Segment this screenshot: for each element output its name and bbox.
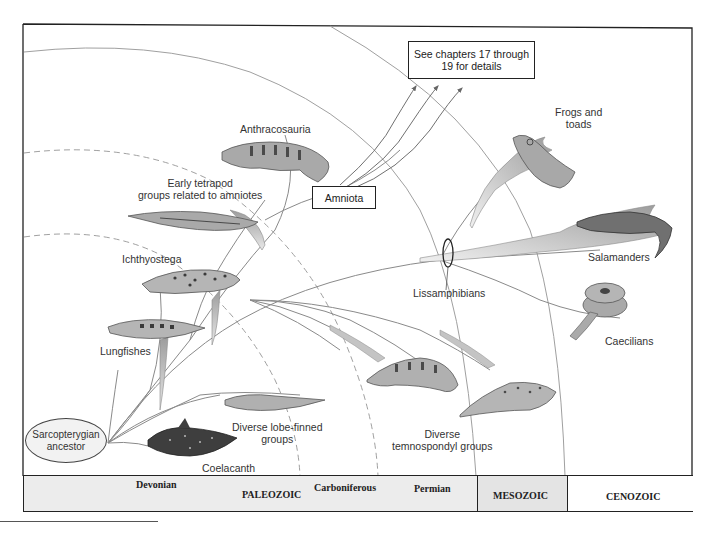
label-ichthyostega: Ichthyostega [122, 253, 182, 265]
label-early-tetrapods-line-2: groups related to amniotes [138, 189, 262, 201]
animal-lobe-finned-fish [225, 395, 325, 411]
see-chapters-callout: See chapters 17 through 19 for details [408, 41, 535, 79]
boundary-arc-1 [24, 48, 476, 476]
amniota-box: Amniota [312, 186, 376, 209]
label-temnospondyls-line-2: temnospondyl groups [392, 440, 492, 452]
animal-temnospondyl-2 [460, 382, 556, 417]
root-label-line-1: Sarcopterygian [32, 429, 99, 441]
sarcopterygian-ancestor-node: Sarcopterygian ancestor [25, 418, 107, 463]
fan-lungfishes [160, 337, 168, 410]
label-coelacanth: Coelacanth [202, 462, 255, 474]
animal-coelacanth [148, 418, 237, 456]
era-mesozoic: MESOZOIC [493, 490, 548, 501]
animal-anthracosauria [222, 142, 329, 182]
amniota-label: Amniota [325, 192, 364, 204]
label-frogs-line-2: toads [555, 118, 602, 130]
root-label-line-2: ancestor [47, 441, 85, 453]
label-early-tetrapods-line-1: Early tetrapod [138, 177, 262, 189]
callout-line-1: See chapters 17 through [414, 48, 529, 60]
era-paleozoic: PALEOZOIC [242, 489, 301, 500]
callout-line-2: 19 for details [441, 60, 501, 72]
label-temnospondyls: Diverse temnospondyl groups [392, 428, 492, 452]
fan-early-tetrapods [230, 210, 265, 250]
animal-temnospondyl-1 [367, 358, 458, 392]
label-lobe-finned-line-1: Diverse lobe-finned [232, 421, 322, 433]
amniota-arrows [340, 86, 462, 190]
label-lissamphibians: Lissamphibians [413, 287, 485, 299]
label-frogs-line-1: Frogs and [555, 106, 602, 118]
label-temnospondyls-line-1: Diverse [392, 428, 492, 440]
phylogeny-diagram: See chapters 17 through 19 for details A… [0, 0, 709, 533]
era-cenozoic: CENOZOIC [606, 491, 660, 502]
label-anthracosauria: Anthracosauria [240, 123, 311, 135]
diagram-graphics [0, 0, 709, 533]
period-devonian: Devonian [136, 479, 177, 490]
period-carboniferous: Carboniferous [314, 482, 376, 493]
fan-temnospondyl-2 [440, 330, 495, 368]
label-salamanders: Salamanders [588, 251, 650, 263]
footnote-rule [0, 521, 158, 522]
frame-border [23, 24, 692, 476]
label-lobe-finned: Diverse lobe-finned groups [232, 421, 322, 445]
period-permian: Permian [414, 483, 451, 494]
animal-lungfish [108, 320, 205, 339]
fan-ichthyostega [212, 290, 220, 345]
label-lungfishes: Lungfishes [100, 345, 151, 357]
label-early-tetrapods: Early tetrapod groups related to amniote… [138, 177, 262, 201]
label-caecilians: Caecilians [605, 335, 653, 347]
fan-temnospondyl-1 [330, 325, 385, 362]
geologic-timeline: Devonian PALEOZOIC Carboniferous Permian… [23, 475, 693, 512]
label-frogs: Frogs and toads [555, 106, 602, 130]
label-lobe-finned-line-2: groups [232, 433, 322, 445]
